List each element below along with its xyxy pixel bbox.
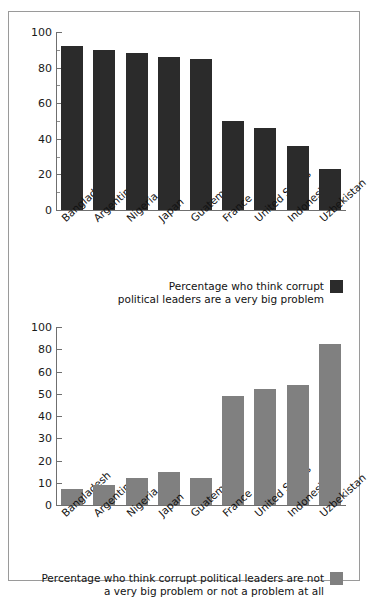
- y-axis-tick-label: 20: [12, 168, 52, 181]
- legend-top: Percentage who think corrupt political l…: [69, 280, 324, 306]
- y-axis-tick-label: 80: [12, 61, 52, 74]
- plot-area-bottom: 100806050403020100BangladeshArgentinaNig…: [9, 317, 361, 595]
- y-axis-tick-mark: [57, 483, 62, 484]
- chart-figure: 100806040200BangladeshArgentinaNigeriaJa…: [8, 11, 360, 581]
- y-axis-tick-label: 0: [12, 204, 52, 217]
- bar: [254, 389, 276, 505]
- y-axis-minor-tick: [57, 85, 60, 86]
- legend-bottom: Percentage who think corrupt political l…: [21, 572, 324, 598]
- legend-bottom-line1: Percentage who think corrupt political l…: [21, 572, 324, 585]
- y-axis-tick-label: 100: [12, 321, 52, 334]
- bar: [222, 396, 244, 505]
- y-axis-tick-mark: [57, 461, 62, 462]
- y-axis-tick-mark: [57, 32, 62, 33]
- y-axis-tick-label: 40: [12, 132, 52, 145]
- y-axis-tick-label: 100: [12, 26, 52, 39]
- y-axis-tick-label: 10: [12, 476, 52, 489]
- y-axis-tick-mark: [57, 416, 62, 417]
- y-axis-tick-label: 60: [12, 97, 52, 110]
- y-axis-tick-mark: [57, 327, 62, 328]
- y-axis-tick-mark: [57, 505, 62, 506]
- y-axis-tick-mark: [57, 349, 62, 350]
- y-axis-tick-label: 60: [12, 365, 52, 378]
- y-axis-tick-mark: [57, 394, 62, 395]
- y-axis-minor-tick: [57, 121, 60, 122]
- y-axis-tick-label: 80: [12, 343, 52, 356]
- y-axis-tick-label: 50: [12, 387, 52, 400]
- y-axis-tick-mark: [57, 372, 62, 373]
- legend-bottom-swatch: [330, 572, 343, 585]
- legend-top-line1: Percentage who think corrupt: [69, 280, 324, 293]
- legend-bottom-line2: a very big problem or not a problem at a…: [21, 585, 324, 598]
- bar: [287, 385, 309, 505]
- y-axis-tick-label: 20: [12, 454, 52, 467]
- y-axis-tick-label: 40: [12, 410, 52, 423]
- bar: [126, 53, 148, 210]
- bar: [61, 46, 83, 210]
- y-axis-tick-mark: [57, 438, 62, 439]
- legend-top-swatch: [330, 280, 343, 293]
- y-axis-minor-tick: [57, 192, 60, 193]
- bar: [93, 50, 115, 210]
- legend-top-line2: political leaders are a very big problem: [69, 293, 324, 306]
- y-axis-minor-tick: [57, 157, 60, 158]
- y-axis-tick-label: 30: [12, 432, 52, 445]
- y-axis-tick-mark: [57, 210, 62, 211]
- y-axis-minor-tick: [57, 50, 60, 51]
- y-axis-tick-label: 0: [12, 499, 52, 512]
- bar: [319, 344, 341, 505]
- plot-area-top: 100806040200BangladeshArgentinaNigeriaJa…: [9, 22, 361, 300]
- bar: [190, 59, 212, 210]
- bar: [158, 57, 180, 210]
